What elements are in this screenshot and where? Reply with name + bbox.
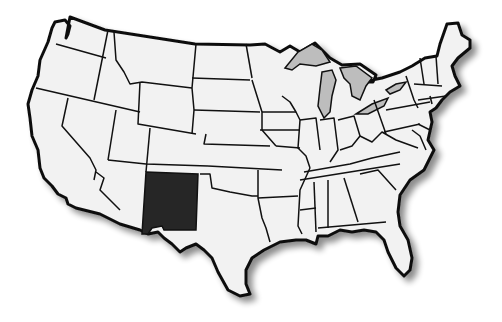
map-container: United States map with New Mexico highli… xyxy=(0,0,502,322)
us-map xyxy=(0,0,502,322)
state-new-mexico[interactable] xyxy=(142,172,198,234)
